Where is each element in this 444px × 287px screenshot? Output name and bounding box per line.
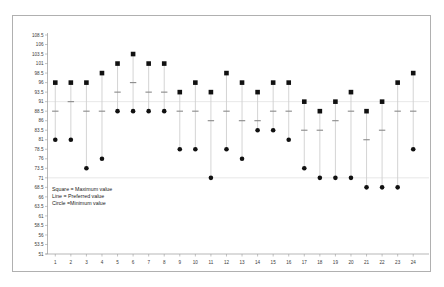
x-tick-label: 6 bbox=[132, 260, 135, 265]
maximum-value-marker bbox=[84, 80, 89, 85]
minimum-value-marker bbox=[84, 166, 89, 171]
x-tick-label: 10 bbox=[193, 260, 199, 265]
y-tick-label: 108.5 bbox=[32, 33, 44, 38]
maximum-value-marker bbox=[318, 109, 323, 114]
maximum-value-marker bbox=[177, 90, 182, 95]
maximum-value-marker bbox=[271, 80, 276, 85]
maximum-value-marker bbox=[286, 80, 291, 85]
y-tick-label: 98.5 bbox=[35, 71, 44, 76]
legend-entry-1: Line = Preferred value bbox=[52, 193, 104, 199]
y-tick-label: 58.5 bbox=[35, 223, 44, 228]
minimum-value-marker bbox=[255, 128, 260, 133]
maximum-value-marker bbox=[162, 61, 167, 66]
y-tick-label: 106 bbox=[36, 42, 44, 47]
maximum-value-marker bbox=[255, 90, 260, 95]
minimum-value-marker bbox=[333, 176, 338, 181]
x-tick-label: 11 bbox=[209, 260, 214, 265]
x-tick-label: 15 bbox=[271, 260, 277, 265]
y-tick-label: 101 bbox=[36, 61, 44, 66]
minimum-value-marker bbox=[395, 185, 400, 190]
y-tick-label: 71 bbox=[38, 176, 44, 181]
x-tick-label: 13 bbox=[239, 260, 245, 265]
minimum-value-marker bbox=[146, 109, 151, 114]
x-tick-label: 19 bbox=[333, 260, 339, 265]
y-tick-label: 56 bbox=[38, 233, 44, 238]
maximum-value-marker bbox=[302, 99, 307, 104]
y-tick-label: 53.5 bbox=[35, 242, 44, 247]
x-tick-label: 17 bbox=[302, 260, 308, 265]
y-tick-label: 96 bbox=[38, 80, 44, 85]
maximum-value-marker bbox=[131, 52, 136, 57]
y-tick-label: 63.5 bbox=[35, 204, 44, 209]
minimum-value-marker bbox=[193, 147, 198, 152]
x-tick-label: 14 bbox=[255, 260, 261, 265]
y-tick-label: 73.5 bbox=[35, 166, 44, 171]
x-tick-label: 4 bbox=[101, 260, 104, 265]
minimum-value-marker bbox=[411, 147, 416, 152]
maximum-value-marker bbox=[115, 61, 120, 66]
minimum-value-marker bbox=[115, 109, 120, 114]
x-tick-label: 16 bbox=[286, 260, 292, 265]
y-tick-label: 86 bbox=[38, 118, 44, 123]
x-tick-label: 23 bbox=[395, 260, 401, 265]
y-tick-label: 88.5 bbox=[35, 109, 44, 114]
maximum-value-marker bbox=[69, 80, 74, 85]
legend-entry-0: Square = Maximum value bbox=[52, 186, 112, 192]
minimum-value-marker bbox=[286, 137, 291, 142]
maximum-value-marker bbox=[209, 90, 214, 95]
maximum-value-marker bbox=[411, 71, 416, 76]
maximum-value-marker bbox=[100, 71, 105, 76]
y-tick-label: 103.5 bbox=[32, 52, 44, 57]
y-tick-label: 78.5 bbox=[35, 147, 44, 152]
y-tick-label: 83.5 bbox=[35, 128, 44, 133]
minimum-value-marker bbox=[162, 109, 167, 114]
maximum-value-marker bbox=[395, 80, 400, 85]
maximum-value-marker bbox=[53, 80, 58, 85]
minimum-value-marker bbox=[224, 147, 229, 152]
maximum-value-marker bbox=[364, 109, 369, 114]
maximum-value-marker bbox=[193, 80, 198, 85]
minimum-value-marker bbox=[240, 156, 245, 161]
x-tick-label: 3 bbox=[85, 260, 88, 265]
maximum-value-marker bbox=[146, 61, 151, 66]
x-tick-label: 21 bbox=[364, 260, 370, 265]
x-tick-label: 24 bbox=[411, 260, 417, 265]
minimum-value-marker bbox=[364, 185, 369, 190]
x-tick-label: 7 bbox=[147, 260, 150, 265]
y-tick-label: 91 bbox=[38, 99, 44, 104]
x-tick-label: 20 bbox=[348, 260, 354, 265]
y-tick-label: 76 bbox=[38, 156, 44, 161]
legend-entry-2: Circle =Minimum value bbox=[52, 200, 106, 206]
y-tick-label: 66 bbox=[38, 195, 44, 200]
minimum-value-marker bbox=[53, 137, 58, 142]
maximum-value-marker bbox=[349, 90, 354, 95]
y-tick-label: 81 bbox=[38, 137, 44, 142]
minimum-value-marker bbox=[177, 147, 182, 152]
minimum-value-marker bbox=[100, 156, 105, 161]
minimum-value-marker bbox=[318, 176, 323, 181]
x-tick-label: 2 bbox=[70, 260, 73, 265]
minimum-value-marker bbox=[302, 166, 307, 171]
maximum-value-marker bbox=[380, 99, 385, 104]
minimum-value-marker bbox=[69, 137, 74, 142]
x-tick-label: 8 bbox=[163, 260, 166, 265]
x-tick-label: 5 bbox=[116, 260, 119, 265]
maximum-value-marker bbox=[333, 99, 338, 104]
maximum-value-marker bbox=[240, 80, 245, 85]
chart-figure: 5153.55658.56163.56668.57173.57678.58183… bbox=[0, 0, 444, 287]
minimum-value-marker bbox=[349, 176, 354, 181]
x-tick-label: 12 bbox=[224, 260, 230, 265]
range-plot: 5153.55658.56163.56668.57173.57678.58183… bbox=[0, 0, 444, 287]
minimum-value-marker bbox=[209, 176, 214, 181]
minimum-value-marker bbox=[271, 128, 276, 133]
maximum-value-marker bbox=[224, 71, 229, 76]
minimum-value-marker bbox=[380, 185, 385, 190]
y-tick-label: 51 bbox=[38, 252, 44, 257]
x-tick-label: 9 bbox=[179, 260, 182, 265]
y-tick-label: 93.5 bbox=[35, 90, 44, 95]
x-tick-label: 22 bbox=[380, 260, 386, 265]
x-tick-label: 1 bbox=[54, 260, 57, 265]
y-tick-label: 61 bbox=[38, 214, 44, 219]
y-tick-label: 68.5 bbox=[35, 185, 44, 190]
minimum-value-marker bbox=[131, 109, 136, 114]
